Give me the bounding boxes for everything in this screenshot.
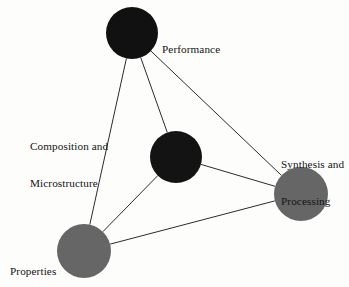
node-label-properties: Properties	[10, 240, 56, 287]
node-label-performance-line1: Performance	[162, 43, 220, 55]
node-label-composition-line2: Microstructure	[30, 177, 108, 189]
node-label-composition: Composition and Microstructure	[30, 115, 108, 214]
node-label-synthesis-line1: Synthesis and	[281, 158, 344, 170]
node-label-performance: Performance	[162, 18, 220, 80]
tetrahedron-diagram: Performance Composition and Microstructu…	[0, 0, 349, 287]
node-label-synthesis: Synthesis and Processing	[281, 133, 344, 232]
edge-properties-synthesis	[110, 201, 275, 244]
node-label-properties-line1: Properties	[10, 265, 56, 277]
node-properties[interactable]	[57, 224, 111, 278]
node-label-synthesis-line2: Processing	[281, 195, 344, 207]
node-performance[interactable]	[106, 7, 158, 59]
node-composition[interactable]	[150, 131, 202, 183]
node-label-composition-line1: Composition and	[30, 140, 108, 152]
edge-composition-synthesis	[201, 164, 275, 186]
edge-composition-properties	[103, 176, 158, 232]
